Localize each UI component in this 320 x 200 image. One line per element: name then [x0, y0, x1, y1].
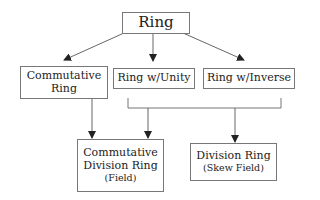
- node-ring-with-inverse: Ring w/Inverse: [203, 68, 295, 89]
- node-commutative-ring: Commutative Ring: [20, 66, 108, 99]
- node-label: Ring: [138, 14, 173, 31]
- node-commutative-division-ring: Commutative Division Ring (Field): [77, 139, 164, 192]
- edge-ring-to-inverse: [183, 33, 244, 60]
- node-label: Division Ring: [196, 150, 270, 163]
- bracket-unity-inverse: [128, 98, 281, 108]
- node-sublabel: (Field): [105, 173, 137, 184]
- edge-ring-to-commutative: [64, 33, 124, 60]
- node-ring: Ring: [122, 12, 190, 34]
- node-label: Commutative: [27, 70, 102, 83]
- node-ring-with-unity: Ring w/Unity: [113, 68, 195, 89]
- node-label: Ring w/Unity: [117, 72, 190, 85]
- node-sublabel: (Skew Field): [203, 163, 264, 174]
- node-label: Ring w/Inverse: [207, 72, 291, 85]
- node-label: Division Ring: [83, 160, 157, 173]
- node-division-ring: Division Ring (Skew Field): [190, 143, 277, 181]
- node-label: Ring: [51, 83, 77, 96]
